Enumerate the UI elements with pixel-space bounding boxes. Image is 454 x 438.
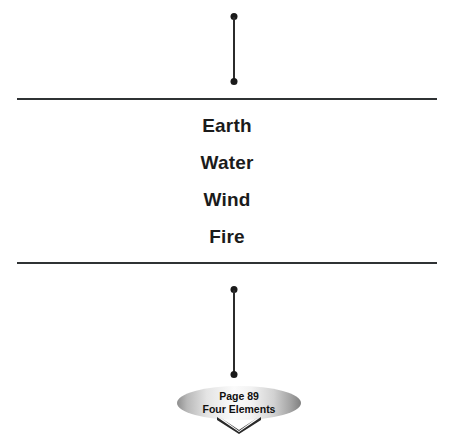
- element-list: Earth Water Wind Fire: [0, 100, 454, 262]
- list-item: Wind: [0, 181, 454, 218]
- page-badge-ellipse: Page 89 Four Elements: [177, 386, 301, 420]
- page-badge-title-label: Four Elements: [203, 403, 276, 416]
- list-item: Water: [0, 144, 454, 181]
- diagram-canvas: Earth Water Wind Fire Page 89 Four Eleme…: [0, 0, 454, 438]
- connector-bottom-line: [233, 290, 235, 375]
- page-badge: Page 89 Four Elements: [177, 386, 301, 434]
- connector-top-line: [233, 17, 235, 82]
- connector-bottom-lower-dot: [231, 371, 238, 378]
- list-item: Fire: [0, 218, 454, 255]
- page-badge-page-label: Page 89: [219, 390, 259, 403]
- list-item: Earth: [0, 107, 454, 144]
- connector-top: [230, 13, 238, 85]
- divider-line-bottom: [17, 262, 437, 264]
- connector-top-lower-dot: [231, 78, 238, 85]
- connector-bottom: [230, 286, 238, 378]
- chevron-down-icon: [216, 416, 262, 434]
